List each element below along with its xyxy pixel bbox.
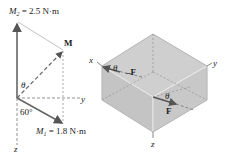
- moment-vector-diagram: M2 = 2.5 N·m M θ 60° y z M1 = 1.8 N·m: [8, 6, 86, 154]
- y-axis-label-right: y: [212, 58, 217, 68]
- m2-label: M2 = 2.5 N·m: [8, 6, 59, 17]
- neg-force-label: –F: [125, 67, 137, 77]
- theta-label-left: θ: [21, 80, 26, 90]
- x-axis-label-right: x: [88, 55, 93, 65]
- y-axis-tick: [207, 63, 212, 66]
- angle-60-label: 60°: [20, 107, 33, 117]
- m1-label: M1 = 1.8 N·m: [35, 126, 86, 137]
- y-axis-label-left: y: [80, 94, 85, 104]
- resultant-m-label: M: [64, 38, 73, 48]
- moment-diagram-canvas: M2 = 2.5 N·m M θ 60° y z M1 = 1.8 N·m x …: [0, 0, 227, 162]
- box-force-diagram: x y z θ –F θ F: [88, 34, 217, 149]
- theta-top-label: θ: [113, 63, 118, 73]
- parallelogram-top-line: [18, 22, 63, 50]
- force-label: F: [166, 106, 172, 116]
- z-axis-label-left: z: [13, 144, 18, 154]
- z-axis-label-right: z: [150, 139, 155, 149]
- resultant-m-arrow: [17, 52, 62, 98]
- x-axis-tick: [97, 62, 102, 66]
- theta-front-label: θ: [165, 91, 170, 101]
